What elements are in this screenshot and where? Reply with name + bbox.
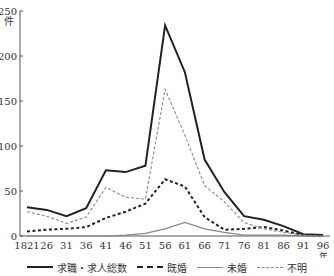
x-tick-label: 56 bbox=[159, 240, 172, 251]
x-tick-label: 91 bbox=[297, 240, 310, 251]
x-tick-label: 61 bbox=[178, 240, 191, 251]
series-line-1 bbox=[27, 179, 323, 236]
legend-item-unknown: 不明 bbox=[257, 260, 307, 275]
x-tick-label: 46 bbox=[119, 240, 132, 251]
x-tick-label: 66 bbox=[198, 240, 211, 251]
y-tick-label: 200 bbox=[0, 51, 17, 62]
legend-swatch-dashed-thin bbox=[257, 267, 283, 268]
x-tick-label: 31 bbox=[60, 240, 73, 251]
x-tick-label: 36 bbox=[80, 240, 93, 251]
x-tick-label: 86 bbox=[277, 240, 290, 251]
legend-label: 不明 bbox=[287, 260, 307, 275]
legend-swatch-solid-thin bbox=[197, 267, 223, 268]
x-tick-label: 51 bbox=[139, 240, 152, 251]
legend-item-married: 既婚 bbox=[137, 260, 187, 275]
x-tick-label: 26 bbox=[40, 240, 53, 251]
legend-label: 求職・求人総数 bbox=[57, 260, 127, 275]
legend: 求職・求人総数 既婚 未婚 不明 bbox=[0, 258, 334, 276]
y-tick-label: 100 bbox=[0, 141, 17, 152]
x-tick-label: 96 bbox=[317, 240, 330, 251]
legend-label: 未婚 bbox=[227, 260, 247, 275]
series-line-0 bbox=[27, 25, 323, 235]
y-tick-label: 150 bbox=[0, 96, 17, 107]
line-chart: 050100150200250件182126313641465156616671… bbox=[0, 0, 334, 258]
legend-swatch-solid-thick bbox=[27, 266, 53, 268]
x-tick-label: 71 bbox=[218, 240, 231, 251]
x-tick-label: 1821 bbox=[14, 240, 39, 251]
x-tick-label: 76 bbox=[238, 240, 251, 251]
legend-swatch-dashed-thick bbox=[137, 266, 163, 268]
x-tick-label: 41 bbox=[100, 240, 113, 251]
x-tick-label: 81 bbox=[257, 240, 270, 251]
legend-item-unmarried: 未婚 bbox=[197, 260, 247, 275]
legend-item-total: 求職・求人総数 bbox=[27, 260, 127, 275]
y-tick-label: 50 bbox=[4, 186, 17, 197]
y-axis-label: 件 bbox=[4, 16, 14, 27]
x-axis-label: 年 bbox=[319, 251, 328, 258]
legend-label: 既婚 bbox=[167, 260, 187, 275]
